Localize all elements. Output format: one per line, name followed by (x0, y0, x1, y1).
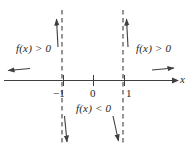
x-axis-arrowhead (172, 78, 179, 84)
sign-chart-figure: f(x) > 0 f(x) > 0 f(x) < 0 −1 0 1 x (0, 0, 191, 147)
sign-chart-graphic (0, 0, 191, 147)
arrow-right-asymptote-down (113, 116, 119, 141)
tick-label-one: 1 (126, 88, 132, 99)
region-label-left-positive: f(x) > 0 (16, 43, 51, 54)
tick-label-zero: 0 (90, 88, 96, 99)
arrow-right-asymptote-up (127, 19, 129, 47)
tick-label-negative-one: −1 (53, 88, 65, 99)
arrow-left-asymptote-up (57, 19, 59, 47)
arrow-left-asymptote-down (65, 116, 68, 142)
x-axis-label: x (180, 74, 185, 85)
arrow-far-right (152, 68, 174, 70)
arrow-far-left (8, 69, 30, 71)
region-label-right-positive: f(x) > 0 (136, 43, 171, 54)
region-label-middle-negative: f(x) < 0 (76, 103, 111, 114)
